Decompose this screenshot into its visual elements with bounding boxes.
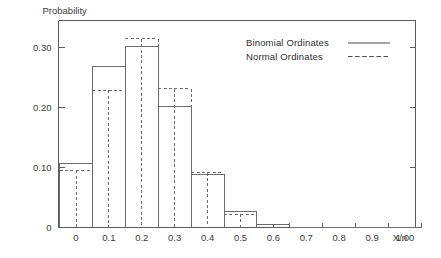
y-axis-caption: Probability — [43, 5, 88, 16]
x-tick-label: 0.9 — [365, 232, 378, 243]
x-tick-label: 0.8 — [333, 232, 346, 243]
legend-label: Normal Ordinates — [246, 51, 323, 62]
x-tick-label: 0.6 — [267, 232, 280, 243]
x-tick-label: 0.3 — [168, 232, 181, 243]
y-tick-label: 0.30 — [33, 42, 52, 53]
x-tick-label: 0.2 — [135, 232, 148, 243]
axis-ticks — [59, 48, 422, 228]
x-axis-tick-labels: 00.10.20.30.40.50.60.70.80.91.00 — [73, 232, 414, 243]
chart-legend: Binomial OrdinatesNormal Ordinates — [246, 37, 390, 62]
histogram-figure: 00.10.20.30.40.50.60.70.80.91.00 00.100.… — [0, 0, 441, 258]
x-tick-label: 0.4 — [201, 232, 214, 243]
binomial-ordinates-bars — [60, 46, 422, 227]
y-tick-label: 0.10 — [33, 162, 52, 173]
y-tick-label: 0.20 — [33, 102, 52, 113]
x-tick-label: 0.5 — [234, 232, 247, 243]
x-tick-label: 0.1 — [102, 232, 115, 243]
y-tick-label: 0 — [46, 222, 51, 233]
x-axis-caption: X/n — [393, 232, 407, 243]
y-axis-tick-labels: 00.100.200.30 — [33, 42, 52, 233]
axis-captions: ProbabilityX/n — [43, 5, 408, 243]
x-tick-label: 0 — [73, 232, 78, 243]
chart-canvas: 00.10.20.30.40.50.60.70.80.91.00 00.100.… — [0, 0, 441, 258]
legend-label: Binomial Ordinates — [246, 37, 329, 48]
axes-frame — [59, 21, 416, 228]
x-tick-label: 0.7 — [300, 232, 313, 243]
